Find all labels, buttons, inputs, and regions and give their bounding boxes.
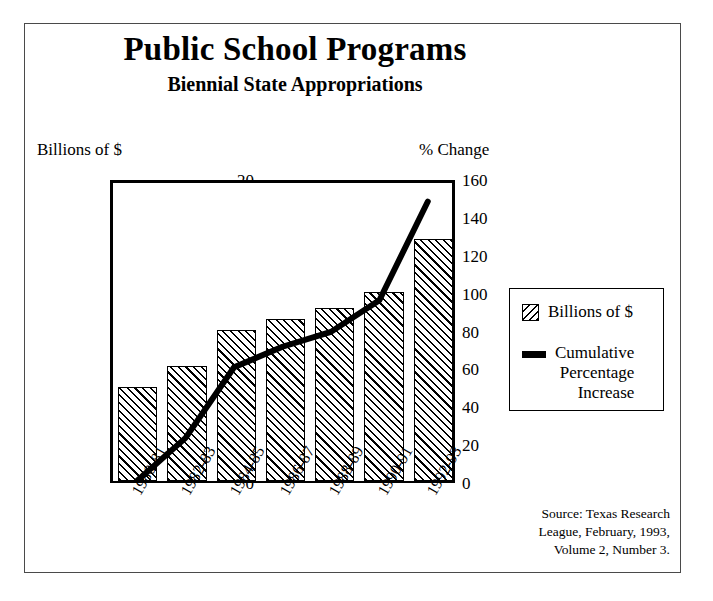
y-tick-right-40: 40: [462, 399, 508, 416]
y-axis-title-left: Billions of $: [37, 140, 122, 160]
y-tick-right-120: 120: [462, 247, 508, 264]
plot-area: [110, 180, 455, 483]
legend-line-swatch-icon: [522, 351, 546, 358]
source-note: Source: Texas Research League, February,…: [505, 505, 670, 559]
source-line-1: Source: Texas Research: [541, 506, 670, 521]
legend-bars-label: Billions of $: [548, 302, 633, 322]
legend-bar-swatch-icon: [522, 304, 539, 321]
legend-line-label-1: Cumulative: [555, 343, 634, 362]
legend-line-label: CumulativePercentageIncrease: [555, 343, 634, 403]
chart-legend: Billions of $ CumulativePercentageIncrea…: [509, 288, 664, 411]
legend-line-label-2: Percentage: [560, 363, 635, 382]
source-line-2: League, February, 1993,: [539, 524, 670, 539]
cumulative-percentage-line: [113, 183, 452, 481]
y-axis-title-right: % Change: [419, 140, 489, 160]
source-line-3: Volume 2, Number 3.: [554, 542, 670, 557]
chart-title: Public School Programs: [60, 33, 530, 66]
y-tick-right-0: 0: [462, 475, 508, 492]
chart-figure: Public School Programs Biennial State Ap…: [0, 0, 713, 601]
y-tick-right-160: 160: [462, 172, 508, 189]
y-tick-right-60: 60: [462, 361, 508, 378]
legend-line-label-3: Increase: [578, 383, 635, 402]
chart-subtitle: Biennial State Appropriations: [60, 74, 530, 94]
y-tick-right-20: 20: [462, 437, 508, 454]
y-tick-right-140: 140: [462, 209, 508, 226]
y-tick-right-80: 80: [462, 323, 508, 340]
y-tick-right-100: 100: [462, 285, 508, 302]
